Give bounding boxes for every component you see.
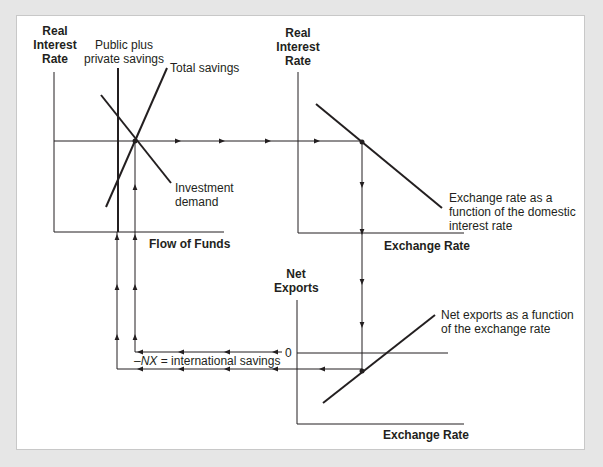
exchange-rate-curve-label: Exchange rate as a function of the domes… <box>449 191 576 233</box>
flow-lines <box>54 141 362 371</box>
net-exports-point <box>360 369 365 374</box>
diagram-graphics <box>0 0 603 467</box>
net-exports-axis-label: Net Exports <box>274 267 318 295</box>
net-exports-curve-label: Net exports as a function of the exchang… <box>441 308 574 336</box>
bottom-right-axes <box>297 300 464 424</box>
savings-investment-point <box>133 139 138 144</box>
investment-demand-label: Investment demand <box>175 181 234 209</box>
top-right-axes <box>298 72 464 233</box>
public-private-savings-label: Public plus private savings <box>84 38 164 66</box>
total-savings-line <box>106 68 167 207</box>
top-right-x-axis-label: Exchange Rate <box>384 239 470 253</box>
total-savings-label: Total savings <box>170 61 239 75</box>
exchange-rate-point <box>360 140 365 145</box>
zero-label: 0 <box>285 346 292 360</box>
flow-of-funds-axis-label: Flow of Funds <box>149 237 230 251</box>
top-left-y-axis-label: Real Interest Rate <box>32 24 78 66</box>
bottom-right-x-axis-label: Exchange Rate <box>383 428 469 442</box>
exchange-rate-line <box>316 104 442 208</box>
net-exports-line <box>323 315 435 403</box>
equilibrium-points <box>133 139 365 374</box>
international-savings-label: –NX = international savings <box>134 354 280 368</box>
top-right-y-axis-label: Real Interest Rate <box>274 26 322 68</box>
